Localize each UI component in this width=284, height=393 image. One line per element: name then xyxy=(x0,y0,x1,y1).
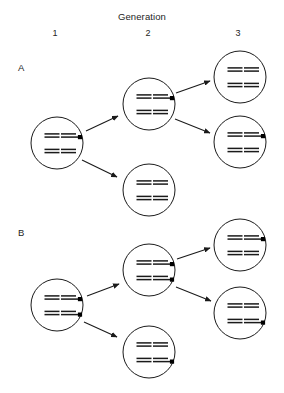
chromosome-top-left xyxy=(137,261,152,264)
chromosome-bottom-left xyxy=(137,196,152,199)
division-arrow-b-arrow-1 xyxy=(87,284,119,296)
chromosome-bottom-right xyxy=(61,149,76,152)
chromosome-top-left xyxy=(45,296,60,299)
cell-b-gen1[interactable] xyxy=(31,279,83,331)
chromosome-top-right-marked xyxy=(61,296,82,301)
chromosome-marker-square xyxy=(261,237,265,241)
cell-a-gen3-lower[interactable] xyxy=(214,116,266,168)
chromosome-bottom-left xyxy=(228,319,243,322)
chromosome-top-right xyxy=(244,304,259,307)
chromosome-marker-square xyxy=(261,134,265,138)
cell-membrane-circle xyxy=(123,326,175,378)
chromosome-marker-square xyxy=(170,360,174,364)
cell-b-gen3-lower[interactable] xyxy=(214,287,266,339)
chromosome-bottom-left xyxy=(228,251,243,254)
chromosome-top-left xyxy=(228,133,243,136)
cell-b-gen2-upper[interactable] xyxy=(123,244,175,296)
chromosome-top-right-marked xyxy=(61,134,82,139)
chromosome-bottom-right-marked xyxy=(153,358,174,363)
chromosome-top-right-marked xyxy=(244,236,265,241)
chromosome-top-right-marked xyxy=(244,133,265,138)
cell-membrane-circle xyxy=(123,78,175,130)
division-arrow-b-arrow-3 xyxy=(177,248,210,259)
cell-a-gen2-upper[interactable] xyxy=(123,78,175,130)
figure-root: Generation 1 2 3 A B xyxy=(0,0,284,393)
chromosome-top-right-marked xyxy=(153,95,174,100)
division-arrow-a-arrow-3 xyxy=(176,81,210,93)
cells-layer xyxy=(31,51,266,378)
chromosome-bottom-left xyxy=(137,276,152,279)
cell-lineage-diagram xyxy=(0,0,284,393)
chromosome-top-right-marked xyxy=(153,261,174,266)
chromosome-bottom-right xyxy=(153,110,168,113)
cell-a-gen2-lower[interactable] xyxy=(123,164,175,216)
cell-membrane-circle xyxy=(123,164,175,216)
cell-membrane-circle xyxy=(214,51,266,103)
chromosome-bottom-right xyxy=(153,196,168,199)
chromosome-marker-square xyxy=(170,262,174,266)
cell-membrane-circle xyxy=(31,279,83,331)
chromosome-bottom-left xyxy=(228,83,243,86)
cell-a-gen3-upper[interactable] xyxy=(214,51,266,103)
chromosome-top-right xyxy=(244,68,259,71)
cell-b-gen2-lower[interactable] xyxy=(123,326,175,378)
chromosome-bottom-right xyxy=(244,148,259,151)
chromosome-top-left xyxy=(228,304,243,307)
arrows-layer xyxy=(82,81,211,337)
chromosome-top-left xyxy=(45,134,60,137)
division-arrow-a-arrow-2 xyxy=(82,160,117,177)
chromosome-bottom-right xyxy=(244,83,259,86)
cell-membrane-circle xyxy=(214,116,266,168)
chromosome-top-left xyxy=(137,181,152,184)
chromosome-marker-square xyxy=(261,321,265,325)
division-arrow-b-arrow-2 xyxy=(84,322,117,337)
cell-b-gen3-upper[interactable] xyxy=(214,219,266,271)
cell-membrane-circle xyxy=(31,117,83,169)
cell-membrane-circle xyxy=(123,244,175,296)
chromosome-bottom-left xyxy=(45,311,60,314)
division-arrow-a-arrow-4 xyxy=(175,119,210,133)
chromosome-bottom-right-marked xyxy=(61,311,82,316)
chromosome-marker-square xyxy=(78,297,82,301)
chromosome-top-left xyxy=(228,236,243,239)
chromosome-marker-square xyxy=(170,278,174,282)
chromosome-bottom-left xyxy=(228,148,243,151)
division-arrow-a-arrow-1 xyxy=(86,116,118,131)
chromosome-top-left xyxy=(228,68,243,71)
cell-membrane-circle xyxy=(214,287,266,339)
chromosome-top-left xyxy=(137,95,152,98)
chromosome-top-right xyxy=(153,343,168,346)
chromosome-bottom-right xyxy=(244,251,259,254)
chromosome-marker-square xyxy=(170,96,174,100)
chromosome-top-left xyxy=(137,343,152,346)
cell-membrane-circle xyxy=(214,219,266,271)
cell-a-gen1[interactable] xyxy=(31,117,83,169)
chromosome-bottom-left xyxy=(137,110,152,113)
chromosome-bottom-right-marked xyxy=(153,276,174,281)
chromosome-marker-square xyxy=(78,313,82,317)
chromosome-marker-square xyxy=(78,135,82,139)
chromosome-bottom-right-marked xyxy=(244,319,265,324)
chromosome-top-right xyxy=(153,181,168,184)
division-arrow-b-arrow-4 xyxy=(176,287,211,301)
chromosome-bottom-left xyxy=(45,149,60,152)
chromosome-bottom-left xyxy=(137,358,152,361)
